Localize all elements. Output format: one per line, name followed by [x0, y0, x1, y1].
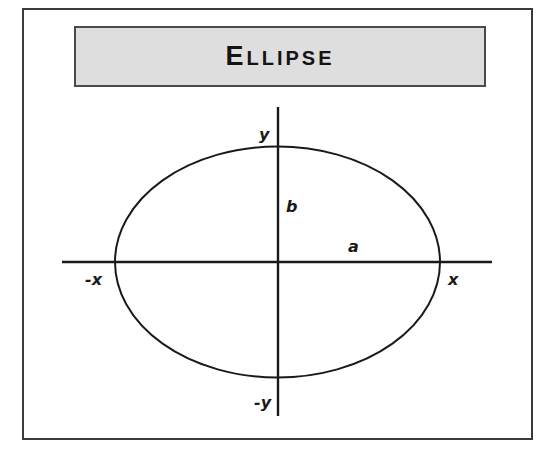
ellipse-figure: ELLIPSE y b a -x x -y [0, 0, 546, 454]
label-semi-major-axis-a: a [348, 239, 359, 255]
ellipse-diagram-svg [0, 0, 546, 454]
label-negative-y: -y [254, 395, 271, 411]
label-positive-y: y [259, 127, 269, 143]
ellipse-diagram [0, 0, 546, 454]
label-negative-x: -x [85, 272, 102, 288]
label-positive-x: x [448, 272, 458, 288]
label-semi-minor-axis-b: b [286, 199, 297, 215]
